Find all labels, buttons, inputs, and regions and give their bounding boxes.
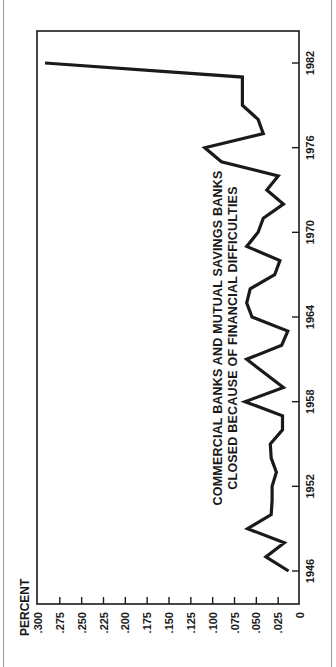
- percent-tick-label: .250: [76, 612, 88, 633]
- year-tick-label: 1970: [304, 220, 316, 244]
- percent-tick-label: .275: [54, 612, 66, 633]
- percent-tick-label: .075: [229, 612, 241, 633]
- year-axis: 1946195219581964197019761982: [292, 51, 316, 583]
- percent-axis-title: PERCENT: [18, 578, 32, 636]
- year-tick-label: 1964: [304, 304, 316, 329]
- annotation-line-2: CLOSED BECAUSE OF FINANCIAL DIFFICULTIES: [226, 186, 240, 489]
- series-line: [45, 63, 289, 571]
- year-tick-label: 1958: [304, 389, 316, 413]
- plot-frame: [37, 31, 299, 604]
- year-tick-label: 1976: [304, 135, 316, 159]
- percent-tick-label: .175: [141, 612, 153, 633]
- percent-tick-label: .025: [272, 612, 284, 633]
- annotation-line-1: COMMERCIAL BANKS AND MUTUAL SAVINGS BANK…: [211, 171, 225, 506]
- percent-tick-label: .050: [250, 612, 262, 633]
- percent-tick-label: .225: [98, 612, 110, 633]
- year-tick-label: 1946: [304, 559, 316, 583]
- chart-annotation: COMMERCIAL BANKS AND MUTUAL SAVINGS BANK…: [211, 171, 240, 506]
- percent-tick-label: .100: [207, 612, 219, 633]
- percent-tick-label: 0: [294, 612, 306, 618]
- percent-tick-label: .150: [163, 612, 175, 633]
- year-tick-label: 1952: [304, 474, 316, 498]
- bank-closures-line-chart: 0.025.050.075.100.125.150.175.200.225.25…: [0, 0, 336, 667]
- year-tick-label: 1982: [304, 51, 316, 75]
- percent-axis: 0.025.050.075.100.125.150.175.200.225.25…: [32, 597, 306, 633]
- percent-tick-label: .125: [185, 612, 197, 633]
- percent-tick-label: .300: [32, 612, 44, 633]
- percent-tick-label: .200: [119, 612, 131, 633]
